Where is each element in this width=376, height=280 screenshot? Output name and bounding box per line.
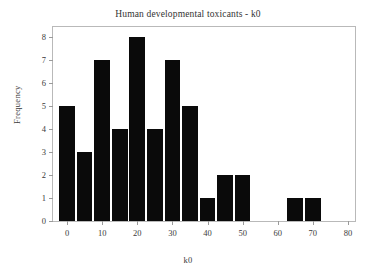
y-tick-mark: [49, 106, 53, 107]
y-axis-title: Frequency: [12, 85, 22, 124]
histogram-bar: [305, 198, 321, 221]
x-tick-mark: [208, 221, 209, 225]
x-tick-mark: [313, 221, 314, 225]
x-tick-label: 70: [309, 228, 318, 238]
x-tick-mark: [137, 221, 138, 225]
y-tick-label: 7: [42, 55, 46, 65]
x-tick-mark: [278, 221, 279, 225]
y-tick-mark: [49, 129, 53, 130]
y-tick-mark: [49, 198, 53, 199]
y-tick-label: 2: [42, 170, 46, 180]
histogram-figure: Human developmental toxicants - k0 Frequ…: [0, 0, 376, 280]
y-tick-mark: [49, 83, 53, 84]
y-tick-label: 4: [42, 124, 46, 134]
y-tick-mark: [49, 221, 53, 222]
x-tick-label: 50: [238, 228, 247, 238]
histogram-bar: [217, 175, 233, 221]
histogram-bar: [235, 175, 251, 221]
y-tick-label: 6: [42, 78, 46, 88]
x-tick-label: 20: [133, 228, 142, 238]
x-tick-mark: [172, 221, 173, 225]
histogram-bar: [182, 106, 198, 221]
y-tick-label: 3: [42, 147, 46, 157]
x-tick-label: 0: [65, 228, 69, 238]
histogram-bar: [287, 198, 303, 221]
y-tick-label: 1: [42, 193, 46, 203]
x-tick-label: 80: [344, 228, 353, 238]
x-tick-label: 30: [168, 228, 177, 238]
y-tick-label: 5: [42, 101, 46, 111]
x-tick-mark: [243, 221, 244, 225]
histogram-bar: [77, 152, 93, 221]
y-tick-mark: [49, 60, 53, 61]
y-tick-label: 8: [42, 32, 46, 42]
x-axis-title: k0: [0, 255, 376, 265]
histogram-bar: [129, 37, 145, 221]
histogram-bar: [147, 129, 163, 221]
histogram-bar: [200, 198, 216, 221]
histogram-bar: [112, 129, 128, 221]
y-tick-mark: [49, 152, 53, 153]
histogram-bar: [59, 106, 75, 221]
x-tick-mark: [102, 221, 103, 225]
x-tick-mark: [348, 221, 349, 225]
x-tick-label: 10: [98, 228, 107, 238]
x-tick-label: 40: [203, 228, 212, 238]
y-tick-label: 0: [42, 216, 46, 226]
chart-title: Human developmental toxicants - k0: [0, 9, 376, 19]
x-tick-mark: [67, 221, 68, 225]
histogram-bar: [94, 60, 110, 221]
x-tick-label: 60: [273, 228, 282, 238]
histogram-bar: [165, 60, 181, 221]
y-tick-mark: [49, 37, 53, 38]
plot-area: 01234567801020304050607080: [52, 26, 356, 222]
plot-inner: [53, 27, 355, 221]
y-tick-mark: [49, 175, 53, 176]
